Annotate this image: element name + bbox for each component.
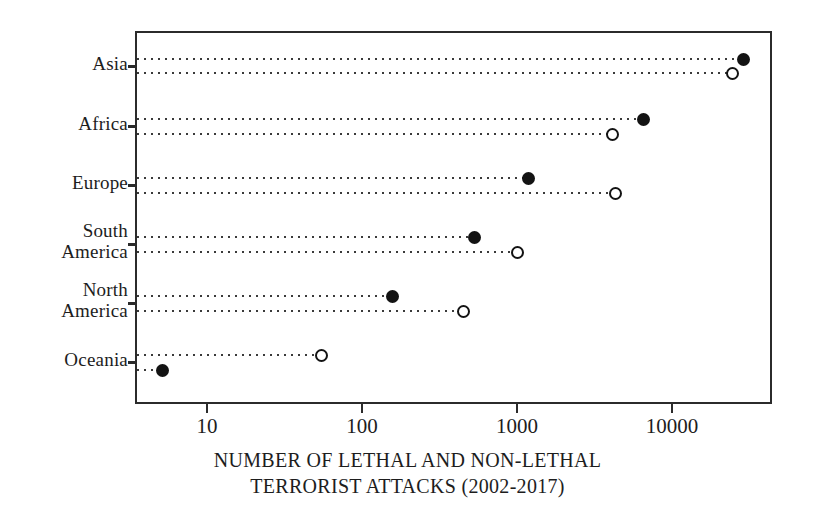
x-axis-title-line-2: TERRORIST ATTACKS (2002-2017) xyxy=(0,473,815,499)
y-axis-label-africa: Africa xyxy=(0,113,128,134)
y-axis-label-line: America xyxy=(0,300,128,321)
x-axis-tick xyxy=(516,404,518,413)
y-axis-labels: AsiaAfricaEuropeSouthAmericaNorthAmerica… xyxy=(0,0,128,509)
y-axis-tick xyxy=(128,184,137,187)
plot-area xyxy=(135,31,772,404)
y-axis-tick xyxy=(128,243,137,246)
data-point-non-lethal-asia xyxy=(726,67,739,80)
x-axis-tick-label: 100 xyxy=(346,414,378,438)
x-axis-tick xyxy=(671,404,673,413)
connector-line xyxy=(137,72,728,74)
connector-line xyxy=(137,177,524,179)
y-axis-label-north-america: NorthAmerica xyxy=(0,279,128,321)
y-axis-tick xyxy=(128,125,137,128)
y-axis-tick xyxy=(128,302,137,305)
x-axis-tick xyxy=(361,404,363,413)
x-axis-title: NUMBER OF LETHAL AND NON-LETHAL TERRORIS… xyxy=(0,447,815,499)
connector-line xyxy=(137,354,318,356)
data-point-non-lethal-north-america xyxy=(457,305,470,318)
x-axis-tick xyxy=(206,404,208,413)
data-point-lethal-europe xyxy=(522,172,535,185)
connector-line xyxy=(137,251,513,253)
y-axis-label-line: South xyxy=(0,220,128,241)
data-point-lethal-asia xyxy=(737,53,750,66)
data-point-lethal-south-america xyxy=(468,231,481,244)
x-axis-tick-label: 1000 xyxy=(496,414,538,438)
x-axis-tick-label: 10 xyxy=(197,414,218,438)
y-axis-label-line: America xyxy=(0,241,128,262)
y-axis-label-line: North xyxy=(0,279,128,300)
connector-line xyxy=(137,58,740,60)
connector-line xyxy=(137,295,389,297)
connector-line xyxy=(137,118,639,120)
data-point-non-lethal-oceania xyxy=(315,349,328,362)
y-axis-label-line: Asia xyxy=(0,53,128,74)
y-axis-label-line: Europe xyxy=(0,172,128,193)
data-point-lethal-oceania xyxy=(156,364,169,377)
data-point-lethal-africa xyxy=(637,113,650,126)
y-axis-label-line: Oceania xyxy=(0,349,128,370)
connector-line xyxy=(137,133,609,135)
connector-line xyxy=(137,310,459,312)
data-point-lethal-north-america xyxy=(386,290,399,303)
y-axis-label-line: Africa xyxy=(0,113,128,134)
x-axis-tick-label: 10000 xyxy=(646,414,699,438)
x-axis-title-line-1: NUMBER OF LETHAL AND NON-LETHAL xyxy=(0,447,815,473)
data-point-non-lethal-south-america xyxy=(511,246,524,259)
connector-line xyxy=(137,236,471,238)
y-axis-label-south-america: SouthAmerica xyxy=(0,220,128,262)
y-axis-tick xyxy=(128,65,137,68)
y-axis-label-oceania: Oceania xyxy=(0,349,128,370)
chart-figure: AsiaAfricaEuropeSouthAmericaNorthAmerica… xyxy=(0,0,815,509)
y-axis-tick xyxy=(128,361,137,364)
y-axis-label-europe: Europe xyxy=(0,172,128,193)
data-point-non-lethal-africa xyxy=(606,128,619,141)
y-axis-label-asia: Asia xyxy=(0,53,128,74)
data-point-non-lethal-europe xyxy=(609,187,622,200)
connector-line xyxy=(137,192,611,194)
